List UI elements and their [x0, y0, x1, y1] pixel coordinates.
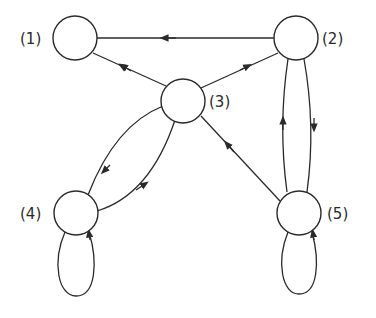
edge-3-to-2 [201, 53, 278, 88]
directed-graph-diagram: (1) (2) (3) (4) (5) [0, 0, 376, 318]
node-label-1: (1) [20, 30, 41, 48]
self-loop-4 [58, 232, 94, 296]
self-loop-5 [282, 232, 317, 294]
node-label-3: (3) [209, 93, 230, 111]
edge-3-to-1 [93, 53, 166, 86]
edge-5-to-3 [201, 116, 280, 201]
node-label-5: (5) [327, 205, 348, 223]
node-4: (4) [20, 191, 98, 235]
node-2: (2) [274, 16, 343, 60]
edge-5-to-2 [283, 59, 288, 192]
edge-3-to-4 [88, 106, 163, 195]
node-label-4: (4) [20, 205, 41, 223]
node-5: (5) [277, 191, 348, 235]
edge-2-to-5 [304, 59, 314, 192]
node-3: (3) [161, 79, 230, 123]
node-label-2: (2) [322, 30, 343, 48]
node-1: (1) [20, 16, 97, 60]
